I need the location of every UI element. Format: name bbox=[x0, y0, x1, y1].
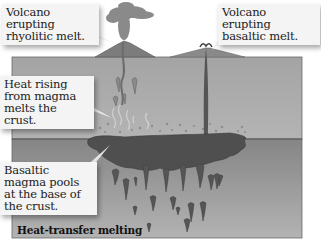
basaltic-volcano bbox=[170, 48, 245, 57]
rhyolitic-volcano bbox=[95, 41, 155, 57]
callout-rhyolitic-volcano: Volcano erupting rhyolitic melt. bbox=[2, 4, 99, 45]
diagram-caption: Heat-transfer melting bbox=[17, 224, 142, 236]
callout-basaltic-volcano: Volcano erupting basaltic melt. bbox=[218, 4, 320, 45]
lava-fountain bbox=[200, 44, 212, 47]
ash-plume bbox=[106, 2, 154, 40]
callout-magma-pool: Basaltic magma pools at the base of the … bbox=[0, 162, 97, 215]
callout-heat-rising: Heat rising from magma melts the crust. bbox=[0, 76, 94, 129]
